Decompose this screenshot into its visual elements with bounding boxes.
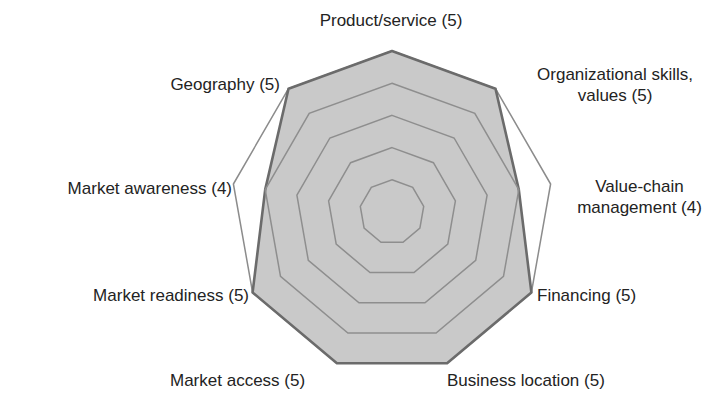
label-market-access: Market access (5) [170, 370, 305, 391]
label-organizational-skills: Organizational skills, values (5) [505, 64, 725, 106]
label-text: Organizational skills, [505, 64, 725, 85]
score-polygon [253, 51, 532, 363]
label-text: Market awareness (4) [68, 179, 232, 198]
label-market-awareness: Market awareness (4) [0, 178, 232, 199]
label-text: Market access (5) [170, 371, 305, 390]
label-text: management (4) [552, 197, 727, 218]
label-text: Financing (5) [537, 286, 636, 305]
label-text: Product/service (5) [320, 11, 463, 30]
label-business-location: Business location (5) [447, 370, 605, 391]
label-text: Geography (5) [170, 75, 280, 94]
label-product-service: Product/service (5) [296, 10, 486, 31]
label-geography: Geography (5) [0, 74, 280, 95]
label-market-readiness: Market readiness (5) [0, 285, 249, 306]
label-text: values (5) [505, 85, 725, 106]
label-text: Business location (5) [447, 371, 605, 390]
label-text: Market readiness (5) [93, 286, 249, 305]
label-value-chain: Value-chain management (4) [552, 176, 727, 218]
label-text: Value-chain [552, 176, 727, 197]
label-financing: Financing (5) [537, 285, 636, 306]
